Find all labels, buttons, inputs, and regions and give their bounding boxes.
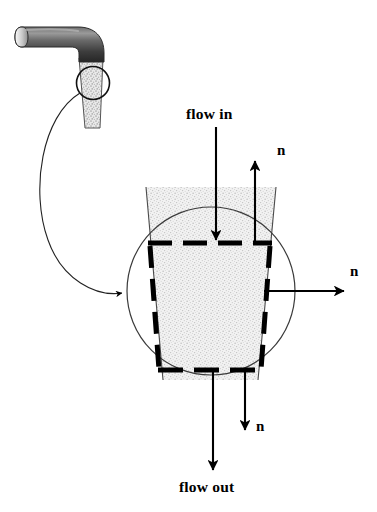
pipe-horizontal-arm <box>15 27 104 62</box>
callout-curve-arrow <box>40 93 122 294</box>
normal-right-label: n <box>350 264 359 279</box>
pipe-control-volume-diagram <box>0 0 377 512</box>
normal-top-label: n <box>277 143 286 158</box>
flow-out-label: flow out <box>179 479 234 495</box>
flow-in-label: flow in <box>186 106 233 122</box>
fluid-region <box>146 187 276 380</box>
figure-container: flow in flow out n n n <box>0 0 377 512</box>
fluid-fill <box>146 187 276 380</box>
normal-bottom-label: n <box>256 419 265 434</box>
